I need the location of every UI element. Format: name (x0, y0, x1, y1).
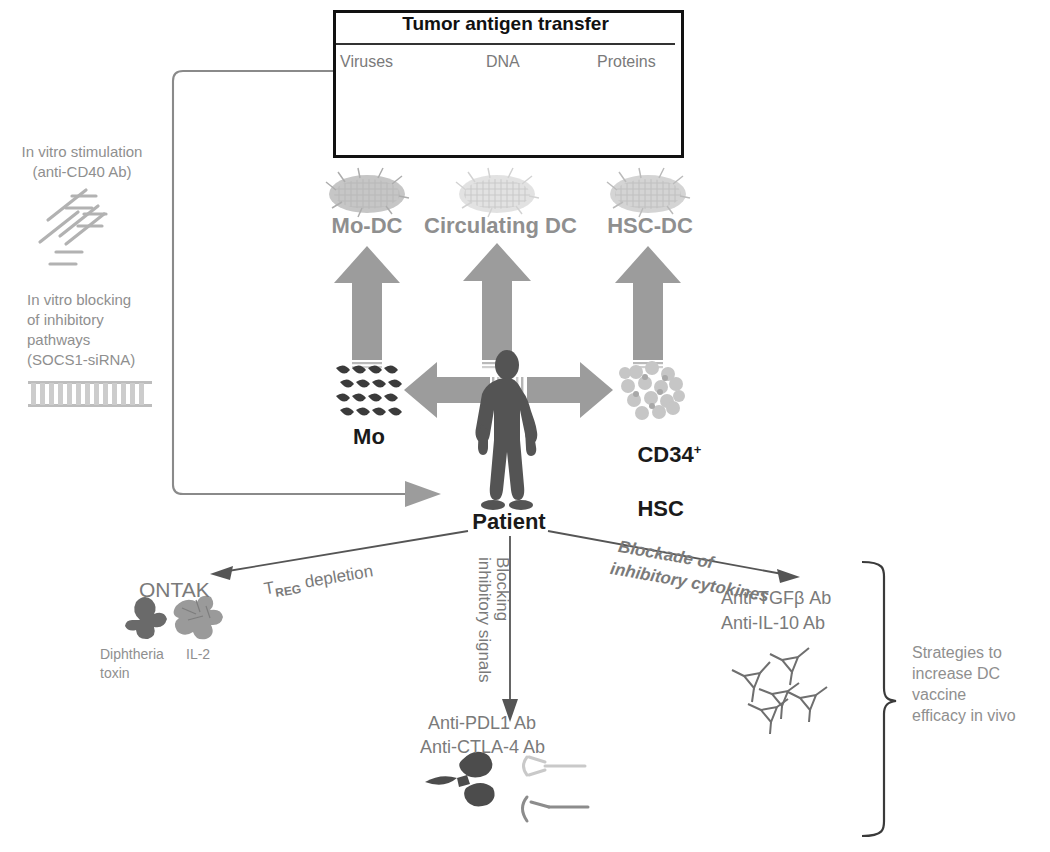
tumor-antigen-box-header: Tumor antigen transfer (333, 13, 678, 35)
dc-label-mo-dc: Mo-DC (305, 213, 429, 239)
arrow-up-hsc-dc (615, 246, 681, 368)
bracket-caption-line1: Strategies to (912, 644, 1002, 663)
label-hsc-text: HSC (637, 496, 683, 521)
label-cd34-superscript: + (694, 442, 702, 457)
in-vitro-stimulation-line2: (anti-CD40 Ab) (12, 163, 152, 181)
ontak-caption-toxin: toxin (100, 665, 130, 682)
drug-label-anti-il10: Anti-IL-10 Ab (721, 613, 825, 634)
in-vitro-blocking-line1: In vitro blocking (27, 291, 131, 309)
arrow-up-mo-dc (334, 246, 400, 368)
blocking-label-text-2: inhibitory signals (475, 557, 494, 683)
treg-label-rest: depletion (299, 562, 375, 593)
antigen-column-label-proteins: Proteins (597, 53, 656, 72)
antigen-column-label-viruses: Viruses (340, 53, 393, 72)
in-vitro-blocking-line2: of inhibitory (27, 311, 104, 329)
figure-canvas: Tumor antigen transfer Viruses DNA Prote… (0, 0, 1050, 852)
monocyte-cluster-icon (336, 365, 402, 415)
arrow-up-circulating-dc (463, 243, 531, 368)
drug-label-anti-ctla4: Anti-CTLA-4 Ab (420, 737, 545, 758)
drug-label-anti-pdl1: Anti-PDL1 Ab (428, 713, 536, 734)
arrow-label-blocking-line2: inhibitory signals (454, 538, 514, 683)
sirna-ladder-icon (28, 381, 152, 407)
dc-label-hsc-dc: HSC-DC (588, 213, 712, 239)
antibody-receptor-icon (425, 752, 588, 821)
tumor-antigen-box-divider (336, 43, 675, 45)
drug-label-anti-tgfb: Anti-TGFβ Ab (721, 588, 831, 609)
bracket-caption-line2: increase DC (912, 665, 1000, 684)
label-patient: Patient (452, 509, 566, 535)
in-vitro-blocking-line3: pathways (27, 331, 90, 349)
bracket-caption-line4: efficacy in vivo (912, 707, 1016, 726)
dc-label-circulating-dc: Circulating DC (424, 213, 574, 239)
antigen-column-label-dna: DNA (486, 53, 520, 72)
ontak-caption-diphtheria: Diphtheria (100, 646, 164, 663)
label-cd34-text: CD34 (637, 442, 693, 467)
patient-silhouette-icon (475, 350, 537, 510)
bracket-caption-line3: vaccine (912, 686, 966, 705)
in-vitro-blocking-line4: (SOCS1-siRNA) (27, 351, 135, 369)
hsc-cluster-icon (619, 361, 685, 420)
ontak-caption-il2: IL-2 (186, 646, 210, 663)
summary-bracket (862, 562, 896, 836)
antibody-cd40-icon (40, 190, 106, 264)
in-vitro-stimulation-line1: In vitro stimulation (12, 143, 152, 161)
differentiation-arrows (334, 243, 681, 368)
treg-label-sub: REG (274, 582, 302, 600)
label-monocytes: Mo (327, 424, 411, 450)
cytokine-trimer-icon (732, 648, 827, 734)
drug-label-ontak: ONTAK (139, 578, 210, 603)
dendritic-cell-clusters (326, 168, 690, 217)
